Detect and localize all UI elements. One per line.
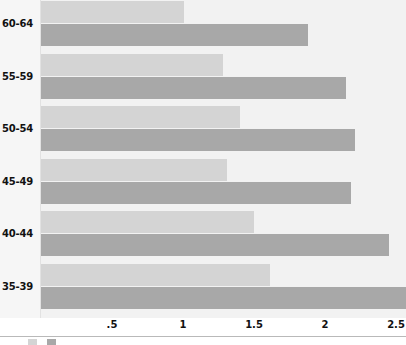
- bar-group: 45-49: [0, 159, 406, 212]
- bar-series-a: [41, 211, 254, 233]
- bar-series-b: [41, 182, 351, 204]
- category-label: 35-39: [2, 281, 38, 292]
- bar-series-a: [41, 106, 240, 128]
- bar-group: 40-44: [0, 211, 406, 264]
- bar-series-a: [41, 1, 184, 23]
- bar-group: 60-64: [0, 1, 406, 54]
- category-label: 40-44: [2, 228, 38, 239]
- x-tick-label: .5: [107, 319, 118, 330]
- x-tick-label: 1: [180, 319, 187, 330]
- chart-legend: [28, 339, 56, 345]
- x-tick-label: 1.5: [245, 319, 263, 330]
- bar-series-b: [41, 77, 346, 99]
- category-label: 60-64: [2, 18, 38, 29]
- bar-group: 50-54: [0, 106, 406, 159]
- category-label: 50-54: [2, 123, 38, 134]
- bar-group: 35-39: [0, 264, 406, 317]
- plot-area: 60-6455-5950-5445-4940-4435-39: [0, 0, 406, 318]
- x-tick-label: 2.5: [387, 319, 405, 330]
- bar-series-b: [41, 129, 355, 151]
- bar-series-a: [41, 54, 223, 76]
- x-axis: .511.522.5: [0, 318, 406, 345]
- x-axis-line: [0, 336, 406, 337]
- bar-series-a: [41, 264, 270, 286]
- bar-series-a: [41, 159, 227, 181]
- legend-item[interactable]: [28, 339, 37, 345]
- legend-item[interactable]: [47, 339, 56, 345]
- x-tick-label: 2: [322, 319, 329, 330]
- bar-group: 55-59: [0, 54, 406, 107]
- bar-series-b: [41, 287, 406, 309]
- legend-swatch-icon: [47, 339, 56, 345]
- category-label: 55-59: [2, 71, 38, 82]
- legend-swatch-icon: [28, 339, 37, 345]
- category-label: 45-49: [2, 176, 38, 187]
- bar-chart: 60-6455-5950-5445-4940-4435-39 .511.522.…: [0, 0, 406, 345]
- bar-series-b: [41, 24, 308, 46]
- bar-series-b: [41, 234, 389, 256]
